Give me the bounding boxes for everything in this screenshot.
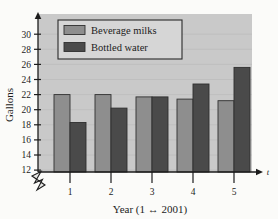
bar-bottled-water-3 [152, 97, 168, 172]
y-tick-label-30: 30 [22, 30, 32, 40]
x-tick-label-2: 2 [109, 187, 114, 197]
y-tick-label-20: 20 [22, 105, 32, 115]
y-tick-label-26: 26 [22, 60, 32, 70]
y-tick-label-16: 16 [22, 135, 32, 145]
y-tick-label-28: 28 [22, 45, 32, 55]
bar-beverage-milks-1 [54, 95, 70, 172]
chart-svg: 12 14 16 18 20 22 24 26 28 30 1 2 3 4 [0, 0, 278, 219]
legend: Beverage milks Bottled water [58, 20, 182, 59]
y-tick-label-24: 24 [22, 75, 32, 85]
bar-beverage-milks-4 [177, 99, 193, 172]
legend-label-bottled-water: Bottled water [91, 42, 148, 53]
bar-bottled-water-4 [193, 84, 209, 172]
bar-bottled-water-1 [70, 123, 86, 173]
x-tick-label-3: 3 [150, 187, 155, 197]
y-tick-label-14: 14 [22, 150, 32, 160]
bar-beverage-milks-2 [95, 95, 111, 172]
x-tick-label-5: 5 [232, 187, 237, 197]
bar-chart-figure: 12 14 16 18 20 22 24 26 28 30 1 2 3 4 [0, 0, 278, 219]
y-tick-label-22: 22 [22, 90, 32, 100]
bar-beverage-milks-3 [136, 97, 152, 172]
legend-swatch-beverage-milks [64, 26, 85, 35]
x-axis-label: Year (1 ↔ 2001) [113, 203, 188, 216]
legend-label-beverage-milks: Beverage milks [91, 25, 157, 36]
x-tick-label-4: 4 [191, 187, 196, 197]
bar-beverage-milks-5 [218, 101, 234, 172]
y-axis-label: Gallons [3, 88, 15, 122]
y-tick-label-18: 18 [22, 120, 32, 130]
bar-bottled-water-5 [234, 67, 250, 172]
y-tick-label-12: 12 [22, 165, 32, 175]
x-tick-label-1: 1 [68, 187, 73, 197]
legend-swatch-bottled-water [64, 43, 85, 52]
bar-bottled-water-2 [111, 108, 127, 172]
